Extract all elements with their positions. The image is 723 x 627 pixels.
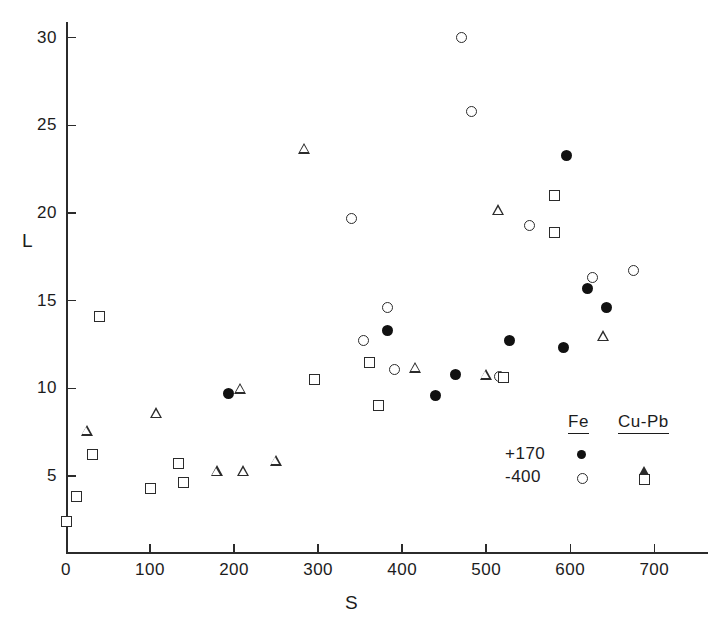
data-point <box>597 330 609 341</box>
x-tick-label-500: 500 <box>458 560 514 580</box>
legend-marker-fe-plus170 <box>577 450 586 459</box>
data-point <box>382 325 393 336</box>
data-point <box>145 483 156 494</box>
legend-marker-cupb-plus170 <box>639 449 649 467</box>
x-tick-label-0: 0 <box>38 560 94 580</box>
data-point <box>498 372 509 383</box>
x-tick-label-700: 700 <box>626 560 682 580</box>
x-tick-600 <box>570 544 572 553</box>
x-tick-700 <box>654 544 656 553</box>
data-point <box>558 342 569 353</box>
y-tick-30 <box>67 37 76 39</box>
legend-column-header-cupb: Cu-Pb <box>618 412 669 434</box>
data-point <box>178 477 189 488</box>
y-axis-title: L <box>22 230 33 252</box>
x-axis-line <box>66 552 708 554</box>
data-point <box>237 465 249 476</box>
data-point <box>298 143 310 154</box>
data-point <box>309 374 320 385</box>
y-tick-10 <box>67 388 76 390</box>
data-point <box>492 204 504 215</box>
data-point <box>373 400 384 411</box>
data-point <box>601 302 612 313</box>
data-point <box>150 407 162 418</box>
y-tick-label-20: 20 <box>13 203 57 223</box>
legend: Fe Cu-Pb +170 -400 <box>505 412 705 508</box>
data-point <box>480 369 492 380</box>
legend-column-header-fe: Fe <box>568 412 589 434</box>
data-point <box>549 227 560 238</box>
y-tick-label-30: 30 <box>13 28 57 48</box>
data-point <box>389 364 400 375</box>
data-point <box>628 265 639 276</box>
y-tick-25 <box>67 125 76 127</box>
data-point <box>450 369 461 380</box>
legend-marker-cupb-minus400 <box>639 474 650 485</box>
data-point <box>358 335 369 346</box>
x-tick-400 <box>401 544 403 553</box>
data-point <box>587 272 598 283</box>
y-tick-label-15: 15 <box>13 291 57 311</box>
data-point <box>81 425 93 436</box>
data-point <box>456 32 467 43</box>
data-point <box>211 465 223 476</box>
data-point <box>234 383 246 394</box>
plot-area: 51015202530 0100200300400500600700 L S F… <box>0 0 723 627</box>
data-point <box>524 220 535 231</box>
open-square-icon <box>639 474 650 485</box>
data-point <box>173 458 184 469</box>
data-point <box>549 190 560 201</box>
x-tick-300 <box>317 544 319 553</box>
y-axis-line <box>66 22 68 553</box>
y-tick-label-10: 10 <box>13 378 57 398</box>
data-point <box>364 357 375 368</box>
x-tick-label-200: 200 <box>206 560 262 580</box>
data-point <box>94 311 105 322</box>
x-tick-200 <box>233 544 235 553</box>
y-tick-15 <box>67 300 76 302</box>
data-point <box>223 388 234 399</box>
x-tick-label-400: 400 <box>374 560 430 580</box>
data-point <box>430 390 441 401</box>
data-point <box>582 283 593 294</box>
y-tick-label-5: 5 <box>13 466 57 486</box>
open-triangle-icon <box>639 449 649 475</box>
legend-marker-fe-minus400 <box>577 473 588 484</box>
data-point <box>270 455 282 466</box>
data-point <box>409 362 421 373</box>
y-tick-20 <box>67 212 76 214</box>
data-point <box>346 213 357 224</box>
x-tick-label-600: 600 <box>542 560 598 580</box>
data-point <box>87 449 98 460</box>
legend-row-label-plus170: +170 <box>505 444 545 464</box>
data-point <box>71 491 82 502</box>
filled-circle-icon <box>577 450 586 459</box>
open-circle-icon <box>577 473 588 484</box>
x-tick-500 <box>485 544 487 553</box>
data-point <box>466 106 477 117</box>
y-tick-5 <box>67 475 76 477</box>
data-point <box>504 335 515 346</box>
scatter-plot-figure: 51015202530 0100200300400500600700 L S F… <box>0 0 723 627</box>
legend-row-label-minus400: -400 <box>505 467 541 487</box>
x-tick-label-300: 300 <box>290 560 346 580</box>
x-axis-title: S <box>345 592 358 614</box>
x-tick-100 <box>149 544 151 553</box>
data-point <box>382 302 393 313</box>
data-point <box>561 150 572 161</box>
y-tick-label-25: 25 <box>13 115 57 135</box>
data-point <box>61 516 72 527</box>
x-tick-label-100: 100 <box>122 560 178 580</box>
